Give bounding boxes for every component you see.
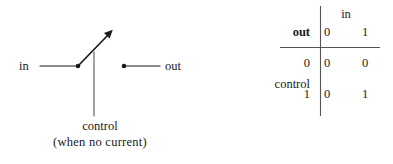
diagram-out-label: out: [165, 60, 181, 73]
table-column-header-0: 0: [312, 26, 342, 39]
table-cell: 0: [312, 88, 342, 101]
table-row-header-1: 1: [280, 88, 310, 101]
table-cell: 0: [350, 57, 380, 70]
table-row-header-0: 0: [280, 57, 310, 70]
table-column-header-1: 1: [350, 26, 380, 39]
diagram-control-label: control: [0, 120, 200, 133]
switch-arm-line: [78, 35, 109, 67]
table-cell: 1: [350, 88, 380, 101]
diagram-in-label: in: [19, 60, 29, 73]
table-cell: 0: [312, 57, 342, 70]
diagram-control-note: (when no current): [0, 136, 200, 149]
truth-table: in out 0 1 control 0 1 0 0 0 1: [200, 0, 393, 164]
switch-diagram: in out control (when no current): [0, 0, 200, 164]
table-column-group-label: in: [312, 8, 380, 21]
table-corner-label: out: [262, 26, 310, 39]
